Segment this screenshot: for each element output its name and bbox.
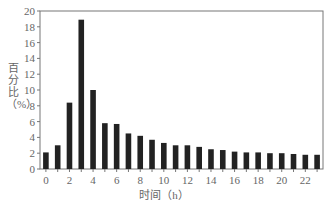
bar [67, 103, 73, 169]
x-axis-label: 时间（h） [0, 186, 328, 202]
bar [279, 153, 285, 169]
x-tick-label: 14 [205, 174, 217, 186]
bar [208, 149, 214, 169]
x-tick-label: 10 [158, 174, 170, 186]
y-tick-label: 20 [24, 5, 36, 17]
bar [161, 143, 167, 169]
x-tick-label: 6 [114, 174, 120, 186]
x-tick-label: 12 [182, 174, 193, 186]
bar-chart: 024681012141618200246810121416182022 [0, 0, 328, 204]
bar [43, 152, 49, 169]
bar [267, 153, 273, 169]
y-axis-label: 百分比（%） [6, 62, 20, 110]
bar [244, 152, 250, 169]
y-tick-label: 4 [30, 131, 36, 143]
x-tick-label: 20 [276, 174, 288, 186]
bar [220, 150, 226, 169]
y-tick-label: 16 [24, 37, 36, 49]
bar [114, 124, 120, 169]
x-tick-label: 4 [90, 174, 96, 186]
x-tick-label: 16 [229, 174, 241, 186]
bar [149, 140, 155, 169]
bar [314, 155, 320, 169]
y-tick-label: 0 [30, 163, 36, 175]
bar [303, 155, 309, 169]
bar [102, 123, 108, 169]
bar [126, 133, 132, 169]
bar [185, 145, 191, 169]
y-tick-label: 14 [24, 52, 36, 64]
x-tick-label: 2 [67, 174, 73, 186]
bar [173, 145, 179, 169]
x-tick-label: 22 [300, 174, 311, 186]
y-tick-label: 12 [24, 68, 35, 80]
bar [291, 154, 297, 169]
y-tick-label: 10 [24, 84, 36, 96]
bar [196, 147, 202, 169]
x-tick-label: 8 [137, 174, 143, 186]
bar [55, 145, 61, 169]
bar [78, 20, 84, 169]
x-tick-label: 0 [43, 174, 49, 186]
y-tick-label: 18 [24, 21, 36, 33]
bar [255, 152, 261, 169]
bar [90, 90, 96, 169]
y-tick-label: 2 [30, 147, 36, 159]
y-tick-label: 6 [30, 116, 36, 128]
bar [232, 152, 238, 169]
bar [137, 136, 143, 169]
x-tick-label: 18 [253, 174, 265, 186]
